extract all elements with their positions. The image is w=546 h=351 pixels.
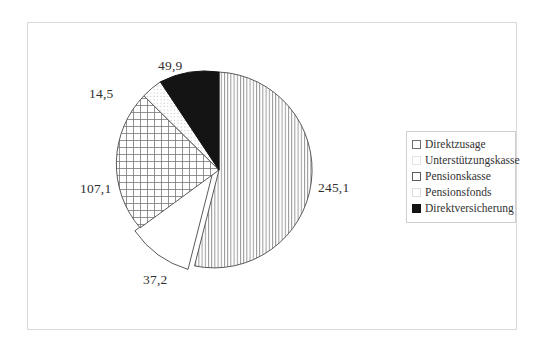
legend-label: Direktversicherung — [425, 202, 514, 215]
legend-swatch-blank-white-icon — [412, 156, 421, 165]
legend-item-direktversicherung[interactable]: Direktversicherung — [412, 201, 511, 216]
legend-label: Unterstützungskasse — [425, 154, 520, 167]
legend-item-unterstuetzungskasse[interactable]: Unterstützungskasse — [412, 153, 511, 168]
slice-value-direktversicherung: 49,9 — [158, 58, 182, 74]
legend-item-pensionskasse[interactable]: Pensionskasse — [412, 169, 511, 184]
chart-legend: Direktzusage Unterstützungskasse Pension… — [406, 131, 516, 223]
legend-label: Pensionsfonds — [425, 186, 491, 199]
legend-swatch-fine-dots-icon — [412, 188, 421, 197]
legend-item-direktzusage[interactable]: Direktzusage — [412, 137, 511, 152]
legend-swatch-cross-hatch-icon — [412, 172, 421, 181]
legend-swatch-solid-black-icon — [412, 204, 421, 213]
legend-swatch-vertical-lines-icon — [412, 140, 421, 149]
slice-value-pensionsfonds: 14,5 — [89, 86, 113, 102]
legend-item-pensionsfonds[interactable]: Pensionsfonds — [412, 185, 511, 200]
pie-chart-figure: 245,1 37,2 107,1 14,5 49,9 Direktzusage … — [0, 0, 546, 351]
slice-value-unterstuetzungskasse: 37,2 — [143, 272, 167, 288]
slice-value-pensionskasse: 107,1 — [80, 181, 111, 197]
legend-label: Pensionskasse — [425, 170, 491, 183]
slice-value-direktzusage: 245,1 — [318, 180, 349, 196]
legend-label: Direktzusage — [425, 138, 486, 151]
